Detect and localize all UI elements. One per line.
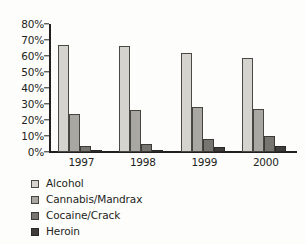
bar [119,46,130,152]
y-axis-tick-label: 10% [2,131,44,142]
bar [141,144,152,152]
bar [264,136,275,152]
bar-chart: 0%10%20%30%40%50%60%70%80% 1997199819992… [0,0,306,244]
x-axis-tick-label: 1999 [174,154,236,170]
bar [275,146,286,152]
bar [253,109,264,152]
legend-item-label: Heroin [46,226,80,237]
bar-group [235,24,297,152]
bar [152,150,163,152]
legend-swatch-icon [31,196,39,204]
y-axis-tick-label: 40% [2,83,44,94]
bar-groups [51,24,297,152]
bar [91,150,102,152]
x-axis-tick-labels: 1997199819992000 [51,154,297,170]
bar-group [174,24,236,152]
y-axis-tick-label: 70% [2,35,44,46]
bar [214,147,225,152]
legend-swatch-icon [31,180,39,188]
legend-item-label: Alcohol [46,178,84,189]
chart-legend: AlcoholCannabis/MandraxCocaine/CrackHero… [31,176,271,240]
y-axis-tick-label: 20% [2,115,44,126]
x-axis-tick-label: 1998 [112,154,174,170]
legend-swatch-icon [31,212,39,220]
bar [69,114,80,152]
bar [80,146,91,152]
legend-item-label: Cannabis/Mandrax [46,194,142,205]
x-axis-tick-label: 2000 [235,154,297,170]
legend-swatch-icon [31,228,39,236]
bar [242,58,253,152]
y-axis-tick-labels: 0%10%20%30%40%50%60%70%80% [0,0,44,170]
y-axis-tick-label: 80% [2,19,44,30]
y-axis-tick-label: 30% [2,99,44,110]
bar [181,53,192,152]
bar-group [51,24,113,152]
y-axis-tick-label: 50% [2,67,44,78]
bar [203,139,214,152]
legend-item-label: Cocaine/Crack [46,210,120,221]
legend-item: Alcohol [31,176,271,191]
legend-item: Heroin [31,224,271,239]
bar-group [112,24,174,152]
plot-area: 0%10%20%30%40%50%60%70%80% 1997199819992… [0,0,306,170]
bar [192,107,203,152]
bar [130,110,141,152]
legend-item: Cannabis/Mandrax [31,192,271,207]
x-axis-tick-label: 1997 [51,154,113,170]
y-axis-tick-label: 60% [2,51,44,62]
y-axis-tick-label: 0% [2,147,44,158]
bar [58,45,69,152]
legend-item: Cocaine/Crack [31,208,271,223]
